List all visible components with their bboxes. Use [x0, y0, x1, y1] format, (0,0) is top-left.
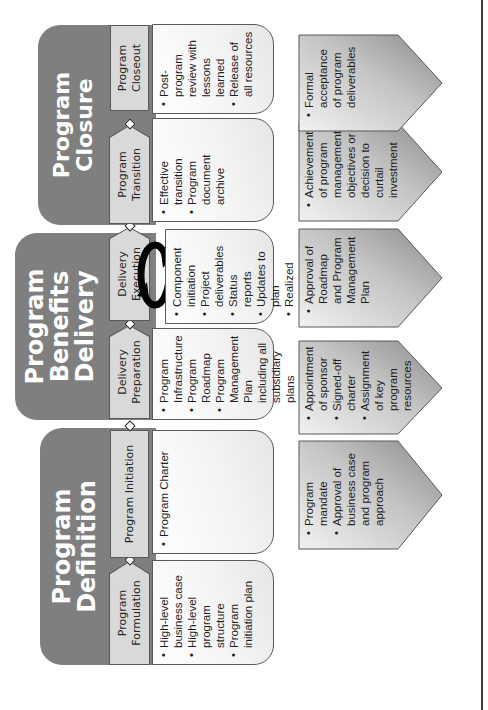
deliverables-delivery-execution: Component initiation Project deliverable… — [165, 229, 274, 324]
gate-item: Formal acceptance of program deliverable… — [302, 38, 358, 108]
deliverables-program-initiation: Program Charter — [152, 430, 274, 554]
gate-item: Achievement of program management object… — [302, 126, 400, 198]
deliverable-item: Component initiation — [170, 236, 198, 307]
deliverable-item: Program Infrastructure — [157, 335, 185, 403]
deliverables-program-formulation: High-level business case High-level prog… — [152, 560, 274, 665]
deliverable-item: Status reports — [226, 236, 254, 307]
gate-item: Program mandate — [302, 444, 330, 526]
subphase-delivery-preparation: Delivery Preparation — [110, 326, 149, 418]
phase-title-line: Benefits — [48, 233, 73, 420]
deliverable-item: Program Charter — [157, 437, 171, 537]
deliverable-item: Updates to plan — [254, 236, 282, 307]
phase-title: Program Benefits Delivery — [23, 233, 99, 420]
subphase-label: Delivery Preparation — [116, 326, 142, 418]
deliverable-item: Project deliverables — [198, 236, 226, 307]
subphase-program-closeout: Program Closeout — [110, 25, 149, 111]
gate-program-initiation: Appointment of sponsor Signed-off charte… — [298, 340, 398, 435]
deliverable-item: Release of all resources — [227, 31, 255, 97]
subphase-label: Program Initiation — [123, 445, 136, 543]
gate-item: Approval of business case and program ap… — [330, 444, 386, 526]
gate-program-formulation: Program mandate Approval of business cas… — [298, 440, 398, 550]
subphase-program-transition: Program Transition — [110, 126, 149, 223]
deliverable-item: Program document archive — [185, 125, 227, 205]
subphase-label: Program Closeout — [116, 26, 142, 110]
deliverables-program-closeout: Post-program review with lessons learned… — [152, 24, 274, 114]
deliverable-item: Program Roadmap — [185, 335, 213, 403]
gate-delivery-preparation: Approval of Roadmap and Program Manageme… — [298, 228, 398, 328]
phase-title: Program Definition — [50, 428, 100, 665]
gate-item: Appointment of sponsor — [302, 344, 330, 411]
subphase-program-initiation: Program Initiation — [110, 430, 149, 558]
deliverable-item: Effective transition — [157, 125, 185, 205]
subphase-program-formulation: Program Formulation — [110, 562, 149, 664]
deliverable-item: Program initiation plan — [227, 567, 255, 648]
deliverables-delivery-preparation: Program Infrastructure Program Roadmap P… — [152, 328, 274, 420]
gate-delivery-execution: Achievement of program management object… — [298, 122, 398, 222]
phase-title: Program Closure — [50, 25, 96, 225]
divider-line — [481, 0, 483, 710]
subphase-label: Program Transition — [116, 126, 142, 223]
program-lifecycle-diagram: Program Definition Program Formulation P… — [0, 0, 488, 710]
phase-title-line: Delivery — [73, 233, 98, 420]
deliverables-program-transition: Effective transition Program document ar… — [152, 118, 274, 222]
deliverable-item: High-level program structure — [185, 567, 227, 648]
gate-item: Signed-off charter — [330, 344, 358, 411]
deliverable-item: Program Management Plan including all su… — [213, 335, 297, 403]
subphase-label: Program Formulation — [116, 562, 142, 664]
gate-item: Assignment of key program resources — [358, 344, 414, 411]
deliverable-item: High-level business case — [157, 567, 185, 648]
deliverable-item: Post-program review with lessons learned — [157, 31, 227, 97]
gate-item: Approval of Roadmap and Program Manageme… — [302, 232, 372, 304]
gate-program-closeout: Formal acceptance of program deliverable… — [298, 34, 398, 132]
phase-title-line: Program — [23, 233, 48, 420]
